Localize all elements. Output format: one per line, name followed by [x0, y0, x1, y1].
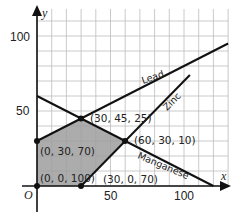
feasible-region-chart: x y O 50 100 50 100 Lead Zinc Manganese …	[0, 0, 233, 219]
x-tick-50: 50	[104, 189, 118, 203]
x-axis-label: x	[220, 169, 227, 183]
point-0-30	[34, 138, 40, 144]
y-axis-label: y	[41, 6, 48, 20]
y-tick-100: 100	[10, 30, 30, 44]
point-label-60-30-10: (60, 30, 10)	[134, 134, 196, 146]
y-axis-arrow-icon	[32, 5, 42, 16]
point-30-45	[78, 116, 84, 122]
point-60-30	[122, 138, 128, 144]
x-tick-100: 100	[174, 189, 194, 203]
zinc-label: Zinc	[161, 90, 183, 112]
point-label-0-0-100: (0, 0, 100)	[40, 172, 95, 184]
lead-label: Lead	[140, 68, 165, 86]
point-label-0-30-70: (0, 30, 70)	[40, 145, 95, 157]
point-label-30-45-25: (30, 45, 25)	[90, 112, 152, 124]
origin-label: O	[24, 188, 33, 202]
point-label-30-0-70: (30, 0, 70)	[103, 173, 158, 185]
y-tick-50: 50	[16, 104, 30, 118]
